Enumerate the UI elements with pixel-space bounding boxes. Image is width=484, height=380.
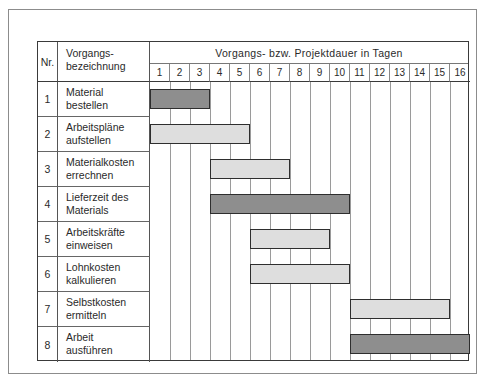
task-bar [250,229,330,249]
task-bar [350,334,470,354]
row-description-line2: kalkulieren [66,274,149,287]
day-header-1: 1 [150,64,170,82]
row-description: Arbeitausführen [58,327,150,362]
row-description-line1: Selbstkosten [66,296,149,309]
row-description-line2: aufstellen [66,134,149,147]
row-description: Materialbestellen [58,82,150,117]
day-header-9: 9 [310,64,330,82]
timeline-title-text: Vorgangs- bzw. Projektdauer in Tagen [215,47,402,59]
day-header-7: 7 [270,64,290,82]
timeline-title: Vorgangs- bzw. Projektdauer in Tagen [150,42,468,64]
grid-line [310,82,311,360]
day-header-6: 6 [250,64,270,82]
row-description: Arbeitspläneaufstellen [58,117,150,152]
day-header-3: 3 [190,64,210,82]
grid-line [250,82,251,360]
row-description-line2: einweisen [66,239,149,252]
task-bar [150,124,250,144]
row-number: 4 [38,187,58,222]
day-header-14: 14 [410,64,430,82]
day-header-12: 12 [370,64,390,82]
row-number: 7 [38,292,58,327]
row-description-line1: Arbeitspläne [66,121,149,134]
row-description-line1: Arbeit [66,331,149,344]
task-bar [250,264,350,284]
day-header-8: 8 [290,64,310,82]
row-description: Arbeitskräfteeinweisen [58,222,150,257]
day-header-16: 16 [450,64,470,82]
grid-line [290,82,291,360]
row-description: Lohnkostenkalkulieren [58,257,150,292]
row-number: 1 [38,82,58,117]
header-nr-label: Nr. [41,56,54,68]
grid-line [330,82,331,360]
row-description-line1: Material [66,86,149,99]
day-header-15: 15 [430,64,450,82]
grid-line [270,82,271,360]
row-description-line1: Arbeitskräfte [66,226,149,239]
row-description: Lieferzeit desMaterials [58,187,150,222]
row-description-line2: ausführen [66,344,149,357]
row-number: 5 [38,222,58,257]
grid-line [450,82,451,360]
day-header-10: 10 [330,64,350,82]
row-description: Materialkostenerrechnen [58,152,150,187]
header-desc-line2: bezeichnung [66,60,149,73]
day-header-2: 2 [170,64,190,82]
row-number: 8 [38,327,58,362]
figure-frame: Nr. Vorgangs- bezeichnung Vorgangs- bzw.… [8,9,477,374]
task-bar [150,89,210,109]
row-description-line1: Materialkosten [66,156,149,169]
row-number: 3 [38,152,58,187]
task-bar [210,159,290,179]
row-description-line2: errechnen [66,169,149,182]
row-description-line2: ermitteln [66,309,149,322]
row-number: 6 [38,257,58,292]
day-header-13: 13 [390,64,410,82]
header-desc-line1: Vorgangs- [66,47,149,60]
task-bar [350,299,450,319]
gantt-table: Nr. Vorgangs- bezeichnung Vorgangs- bzw.… [37,41,469,361]
row-description-line2: Materials [66,204,149,217]
row-description-line2: bestellen [66,99,149,112]
task-bar [210,194,350,214]
day-header-4: 4 [210,64,230,82]
header-nr: Nr. [38,42,58,82]
row-number: 2 [38,117,58,152]
row-description-line1: Lieferzeit des [66,191,149,204]
header-description: Vorgangs- bezeichnung [58,42,150,82]
day-header-5: 5 [230,64,250,82]
row-description: Selbstkostenermitteln [58,292,150,327]
row-description-line1: Lohnkosten [66,261,149,274]
day-header-11: 11 [350,64,370,82]
